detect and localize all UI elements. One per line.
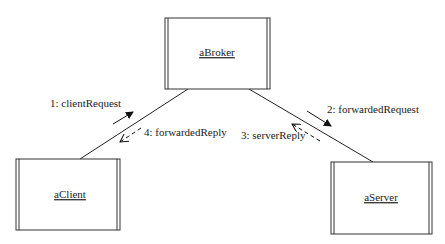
object-aclient[interactable]: aClient	[16, 159, 120, 230]
object-aserver[interactable]: aServer	[331, 162, 432, 234]
message-label-3: 3: serverReply	[241, 129, 306, 141]
object-label-aserver: aServer	[364, 191, 398, 203]
link-broker-server	[249, 89, 373, 162]
message-label-1: 1: clientRequest	[50, 97, 121, 109]
collaboration-diagram: aBroker aClient aServer 1: clientRequest…	[0, 0, 445, 244]
object-abroker[interactable]: aBroker	[165, 18, 270, 89]
message-arrow-4	[120, 128, 141, 142]
object-label-aclient: aClient	[54, 188, 86, 200]
message-label-4: 4: forwardedReply	[144, 126, 227, 138]
message-label-2: 2: forwardedRequest	[327, 103, 419, 115]
message-arrow-1	[113, 112, 133, 124]
object-label-abroker: aBroker	[199, 46, 235, 58]
